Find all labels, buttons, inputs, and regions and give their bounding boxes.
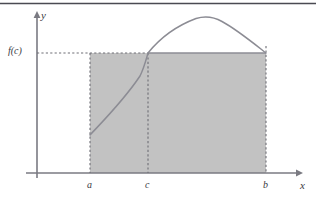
x-tick-label-b: b [263,180,268,190]
mvt-integrals-plot [0,0,316,199]
y-axis-label: y [41,10,46,21]
arrow-up-icon [34,11,41,18]
arrow-right-icon [296,170,303,177]
x-axis-label: x [300,180,305,191]
fc-value-label: f(c) [8,46,22,56]
figure-canvas: f(c) y x a c b [0,0,316,199]
x-tick-label-a: a [87,180,92,190]
x-tick-label-c: c [145,180,149,190]
shaded-area-rectangle [90,53,266,173]
